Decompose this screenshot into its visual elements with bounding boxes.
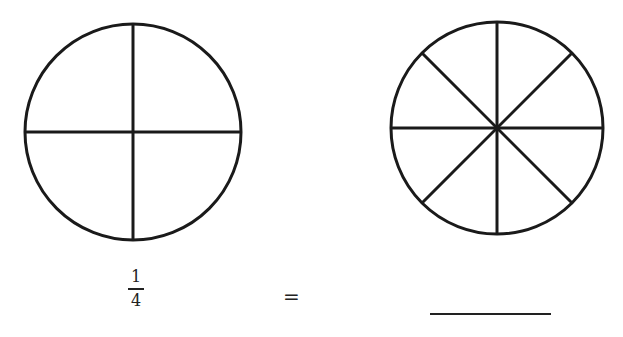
fraction-one-quarter: 1 4 bbox=[124, 268, 148, 310]
fraction-numerator: 1 bbox=[124, 268, 148, 286]
equals-sign: = bbox=[283, 284, 300, 308]
fraction-denominator: 4 bbox=[124, 292, 148, 310]
left-circle-quarters bbox=[25, 24, 241, 240]
answer-blank-line bbox=[430, 313, 551, 315]
fraction-circles bbox=[0, 0, 623, 337]
fraction-bar bbox=[128, 288, 144, 290]
right-circle-eighths bbox=[391, 22, 603, 234]
